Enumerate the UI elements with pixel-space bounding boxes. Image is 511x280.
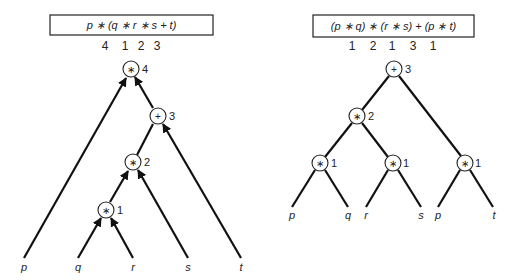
node-order-label: 1 <box>331 157 337 169</box>
leaf-r: r <box>364 209 369 221</box>
leaf-s: s <box>185 261 191 273</box>
left-tree: p ∗ (q ∗ r ∗ s + t) 4 1 2 3 ∗ 4 + 3 <box>20 15 244 273</box>
right-node-1c: ∗ 1 <box>457 155 481 171</box>
node-order-label: 1 <box>403 157 409 169</box>
edge-node1b-to-s <box>398 170 421 207</box>
right-precedence-3: 1 <box>389 39 396 53</box>
node-operator: ∗ <box>389 158 397 169</box>
right-expression: (p ∗ q) ∗ (r ∗ s) + (p ∗ t) <box>331 20 457 32</box>
right-precedence-5: 1 <box>430 39 437 53</box>
right-precedence-2: 2 <box>370 39 377 53</box>
right-tree: (p ∗ q) ∗ (r ∗ s) + (p ∗ t) 1 2 1 3 1 + … <box>288 15 497 221</box>
edge-arrow-r-to-node1 <box>111 218 133 258</box>
edge-arrow-s-to-node2 <box>138 170 188 258</box>
edge-arrow-node1-to-node2 <box>110 171 128 202</box>
right-node-1a: ∗ 1 <box>312 155 337 171</box>
leaf-q: q <box>345 209 352 221</box>
left-precedence-2: 1 <box>122 39 129 53</box>
leaf-p-2: p <box>434 209 441 221</box>
left-precedence-1: 4 <box>102 39 109 53</box>
leaf-r: r <box>131 261 136 273</box>
edge-node3-to-node2 <box>362 76 389 110</box>
edge-arrow-q-to-node1 <box>78 218 101 258</box>
right-precedence-4: 3 <box>410 39 417 53</box>
node-order-label: 1 <box>117 204 123 216</box>
node-operator: + <box>391 64 397 75</box>
edge-node2-to-node1b <box>362 123 388 157</box>
node-order-label: 1 <box>475 157 481 169</box>
expression-trees-diagram: p ∗ (q ∗ r ∗ s + t) 4 1 2 3 ∗ 4 + 3 <box>0 0 511 280</box>
node-order-label: 3 <box>405 63 411 75</box>
node-operator: ∗ <box>316 158 324 169</box>
node-order-label: 2 <box>144 156 150 168</box>
leaf-t: t <box>492 209 496 221</box>
right-node-1b: ∗ 1 <box>385 155 409 171</box>
edge-arrow-node3-to-node4 <box>135 77 153 108</box>
node-operator: ∗ <box>129 157 137 168</box>
edge-node1a-to-p <box>292 170 315 207</box>
edge-node2-to-node3 <box>137 124 153 155</box>
left-node-2: ∗ 2 <box>125 154 150 170</box>
leaf-t: t <box>239 261 243 273</box>
node-order-label: 2 <box>368 110 374 122</box>
edge-node2-to-node1a <box>325 123 352 157</box>
node-operator: ∗ <box>102 205 110 216</box>
left-precedence-4: 3 <box>154 39 161 53</box>
edge-arrow-t-to-node3 <box>163 124 241 258</box>
left-node-4: ∗ 4 <box>123 61 148 77</box>
node-operator: ∗ <box>461 158 469 169</box>
node-operator: ∗ <box>353 111 361 122</box>
leaf-p: p <box>20 261 27 273</box>
right-edges <box>292 76 493 207</box>
left-node-3: + 3 <box>150 108 175 124</box>
edge-node3-to-node1c <box>399 76 461 156</box>
edge-node1a-to-q <box>325 170 348 207</box>
right-node-2: ∗ 2 <box>349 108 374 124</box>
node-order-label: 4 <box>142 63 148 75</box>
node-operator: + <box>155 111 161 122</box>
edge-node1b-to-r <box>366 170 388 207</box>
edge-node1c-to-t <box>470 170 493 207</box>
leaf-q: q <box>75 261 82 273</box>
edge-arrow-p-to-node4 <box>24 78 126 258</box>
left-precedence-3: 2 <box>138 39 145 53</box>
leaf-s: s <box>418 209 424 221</box>
right-node-3: + 3 <box>386 61 411 77</box>
edge-node1c-to-p <box>438 170 460 207</box>
leaf-p: p <box>288 209 295 221</box>
left-expression: p ∗ (q ∗ r ∗ s + t) <box>86 19 177 31</box>
left-node-1: ∗ 1 <box>98 202 123 218</box>
node-operator: ∗ <box>127 64 135 75</box>
right-precedence-1: 1 <box>349 39 356 53</box>
node-order-label: 3 <box>169 110 175 122</box>
